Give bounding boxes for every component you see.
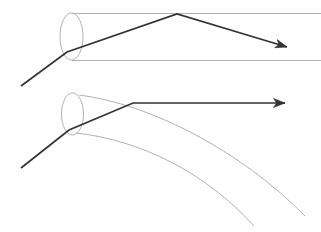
diagram-canvas [0, 0, 321, 232]
reflected-ray-path [21, 14, 287, 86]
lower-panel-group [21, 93, 305, 226]
refracted-ray-path [21, 103, 285, 168]
optical-fiber-ray-diagram [0, 0, 321, 232]
cone-lower-boundary [76, 133, 254, 226]
cone-upper-boundary [79, 95, 305, 216]
reflected-ray-arrowhead-icon [275, 40, 288, 51]
cylinder-aperture-ellipse [60, 13, 83, 60]
upper-panel-group [21, 13, 321, 86]
